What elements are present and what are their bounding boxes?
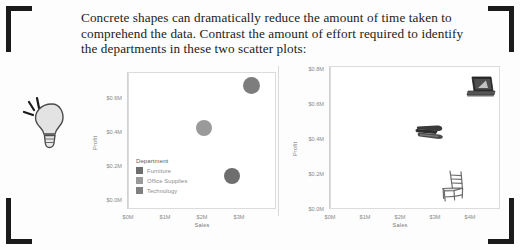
slide-canvas: Concrete shapes can dramatically reduce … [0,0,520,250]
legend-swatch-furniture [136,167,143,174]
x-tick-left-2: $2M [192,214,212,220]
legend-item-technology[interactable]: Technology [136,187,187,194]
panel-divider [278,66,279,216]
legend-department: Department Furniture Office Supplies Tec… [136,158,187,197]
plot-area-left: Department Furniture Office Supplies Tec… [127,72,276,209]
x-tick-left-1: $1M [155,214,175,220]
y-tick-left-3: $0.6M [92,95,122,101]
y-axis-title-left: Profit [92,136,98,150]
legend-title: Department [136,158,187,164]
data-point-furniture[interactable] [224,168,240,184]
x-tick-right-4: $4M [460,214,480,220]
laptop-icon[interactable] [466,75,496,99]
y-tick-left-0: $0.0M [92,197,122,203]
scatter-plot-circles: Profit $0.6M $0.4M $0.2M $0.0M Departmen… [84,64,280,232]
x-tick-right-3: $3M [425,214,445,220]
x-axis-title-left: Sales [192,222,212,228]
x-tick-right-1: $1M [355,214,375,220]
y-axis-title-right: Profit [292,142,298,156]
legend-swatch-technology [136,187,143,194]
x-axis-title-right: Sales [390,222,410,228]
legend-label-furniture: Furniture [147,168,171,174]
plot-area-right [329,66,500,209]
corner-bracket-bottom-left [6,198,32,244]
x-tick-left-3: $3M [229,214,249,220]
lightbulb-icon [22,96,74,150]
y-tick-left-2: $0.4M [92,129,122,135]
legend-label-technology: Technology [147,188,177,194]
x-tick-right-0: $0M [320,214,340,220]
heading-text: Concrete shapes can dramatically reduce … [81,10,481,57]
legend-swatch-office-supplies [136,177,143,184]
legend-label-office-supplies: Office Supplies [147,178,187,184]
y-tick-right-4: $0.8M [292,66,324,72]
chair-icon[interactable] [440,169,466,203]
y-tick-right-0: $0.0M [292,206,324,212]
legend-item-office-supplies[interactable]: Office Supplies [136,177,187,184]
data-point-technology[interactable] [243,77,260,94]
scatter-plot-glyphs: Profit $0.8M $0.6M $0.4M $0.2M $0.0M [282,64,506,232]
x-tick-left-0: $0M [118,214,138,220]
y-tick-right-1: $0.2M [292,171,324,177]
stapler-icon[interactable] [414,123,448,141]
legend-item-furniture[interactable]: Furniture [136,167,187,174]
y-tick-right-3: $0.6M [292,101,324,107]
corner-bracket-top-left [6,6,32,52]
data-point-office-supplies[interactable] [196,120,212,136]
x-tick-right-2: $2M [390,214,410,220]
corner-bracket-top-right [488,6,514,52]
y-tick-left-1: $0.2M [92,163,122,169]
y-tick-right-2: $0.4M [292,136,324,142]
